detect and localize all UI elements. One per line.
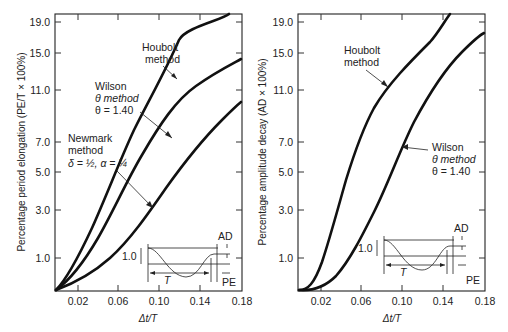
svg-text:1.0: 1.0 [122,250,137,262]
svg-text:AD: AD [218,230,233,242]
left-y-tick-labels: 19.0 15.0 11.0 7.0 5.0 3.0 1.0 [30,16,51,264]
svg-text:0.06: 0.06 [351,295,372,307]
svg-text:1.0: 1.0 [35,252,50,264]
svg-text:0.06: 0.06 [108,295,129,307]
svg-text:T: T [400,266,408,278]
svg-text:0.14: 0.14 [433,295,454,307]
svg-text:0.10: 0.10 [392,295,413,307]
svg-text:11.0: 11.0 [273,84,293,96]
svg-text:3.0: 3.0 [35,204,50,216]
left-x-axis-title: Δt/T [138,313,158,324]
svg-text:0.18: 0.18 [232,295,253,307]
left-plot: 19.0 15.0 11.0 7.0 5.0 3.0 1.0 0.02 0.06… [16,14,252,324]
svg-text:11.0: 11.0 [30,84,50,96]
svg-text:15.0: 15.0 [30,47,51,59]
left-x-tick-labels: 0.02 0.06 0.10 0.14 0.18 [68,295,253,307]
svg-text:15.0: 15.0 [273,47,294,59]
right-x-ticks [321,14,443,291]
left-y-axis-title: Percentage period elongation (PE/T × 100… [16,52,27,251]
svg-text:7.0: 7.0 [35,136,50,148]
right-plot: 19.0 15.0 11.0 7.0 5.0 3.0 1.0 0.02 0.06… [257,14,495,324]
right-inset-schematic: 1.0 T AD PE [358,222,480,286]
svg-text:Wilson: Wilson [432,141,464,153]
svg-text:5.0: 5.0 [278,166,293,178]
figure: 19.0 15.0 11.0 7.0 5.0 3.0 1.0 0.02 0.06… [0,0,508,332]
svg-text:0.18: 0.18 [475,295,496,307]
svg-text:0.02: 0.02 [311,295,332,307]
svg-text:T: T [164,274,172,286]
right-y-axis-title: Percentage amplitude decay (AD × 100%) [257,58,268,245]
svg-text:method: method [68,144,103,156]
svg-text:0.10: 0.10 [149,295,170,307]
svg-text:Houbolt: Houbolt [344,44,380,56]
right-x-axis-title: Δt/T [382,313,402,324]
right-label-wilson: Wilson θ method θ = 1.40 [402,141,477,177]
left-label-houbolt: Houbolt method [142,41,180,79]
svg-text:19.0: 19.0 [30,16,51,28]
svg-text:method: method [145,53,180,65]
left-curve-wilson [56,59,241,290]
svg-text:Wilson: Wilson [95,80,127,92]
svg-text:PE: PE [222,276,236,288]
svg-text:θ method: θ method [95,92,140,104]
svg-text:19.0: 19.0 [273,16,294,28]
svg-text:1.0: 1.0 [278,252,293,264]
svg-text:0.02: 0.02 [68,295,89,307]
left-inset-schematic: 1.0 T AD PE [122,230,236,288]
svg-text:AD: AD [454,222,469,234]
svg-text:method: method [344,56,379,68]
svg-text:θ = 1.40: θ = 1.40 [432,165,470,177]
svg-text:θ method: θ method [432,153,477,165]
svg-text:5.0: 5.0 [35,166,50,178]
left-label-newmark: Newmark method δ = ½, α = ¼ [68,132,153,208]
right-y-tick-labels: 19.0 15.0 11.0 7.0 5.0 3.0 1.0 [273,16,294,264]
svg-text:0.14: 0.14 [190,295,211,307]
right-x-tick-labels: 0.02 0.06 0.10 0.14 0.18 [311,295,496,307]
svg-text:3.0: 3.0 [278,204,293,216]
svg-text:δ = ½, α = ¼: δ = ½, α = ¼ [68,157,127,169]
svg-text:Newmark: Newmark [68,132,113,144]
svg-text:7.0: 7.0 [278,136,293,148]
svg-text:1.0: 1.0 [358,242,373,254]
svg-text:PE: PE [466,274,480,286]
svg-text:θ = 1.40: θ = 1.40 [95,104,133,116]
svg-text:Houbolt: Houbolt [142,41,178,53]
right-label-houbolt: Houbolt method [344,44,388,87]
